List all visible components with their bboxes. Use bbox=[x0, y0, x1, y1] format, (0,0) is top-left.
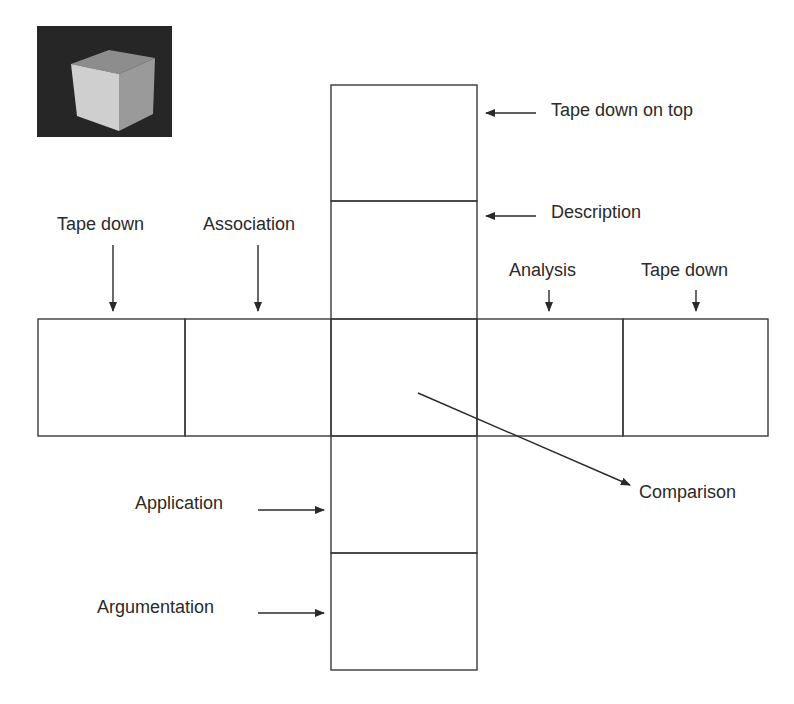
face-association bbox=[185, 319, 331, 436]
label-comparison: Comparison bbox=[639, 482, 736, 502]
face-argumentation bbox=[331, 553, 477, 670]
label-tape-down-on-top: Tape down on top bbox=[551, 100, 693, 120]
face-description bbox=[331, 201, 477, 319]
label-argumentation: Argumentation bbox=[97, 597, 214, 617]
label-tape-down-right: Tape down bbox=[641, 260, 728, 280]
face-tape-right bbox=[623, 319, 768, 436]
face-analysis bbox=[477, 319, 623, 436]
label-tape-down-left: Tape down bbox=[57, 214, 144, 234]
label-association: Association bbox=[203, 214, 295, 234]
face-application bbox=[331, 436, 477, 553]
face-comparison bbox=[331, 319, 477, 436]
arrow-comparison bbox=[418, 393, 630, 485]
face-tape-left bbox=[38, 319, 185, 436]
label-analysis: Analysis bbox=[509, 260, 576, 280]
face-tape-top bbox=[331, 85, 477, 201]
label-application: Application bbox=[135, 493, 223, 513]
label-description: Description bbox=[551, 202, 641, 222]
